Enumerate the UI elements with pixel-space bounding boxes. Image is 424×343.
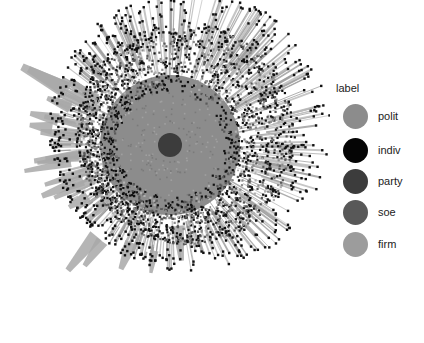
legend-swatch-soe <box>343 200 368 225</box>
legend-label: polit <box>378 110 398 122</box>
legend-item-indiv: indiv <box>340 138 424 164</box>
legend-label: soe <box>378 206 396 218</box>
legend-swatch-firm <box>343 232 368 257</box>
core-cluster <box>158 133 182 157</box>
network-graph <box>0 0 330 343</box>
legend-item-firm: firm <box>340 232 424 258</box>
legend-label: party <box>378 175 402 187</box>
legend-label: firm <box>378 238 396 250</box>
legend-swatch-indiv <box>343 138 368 163</box>
legend-label: indiv <box>378 144 401 156</box>
legend-swatch-party <box>343 169 368 194</box>
legend-item-soe: soe <box>340 200 424 226</box>
legend-swatch-polit <box>343 104 368 129</box>
legend-item-party: party <box>340 169 424 195</box>
legend-title: label <box>336 82 359 94</box>
legend-item-polit: polit <box>340 104 424 130</box>
